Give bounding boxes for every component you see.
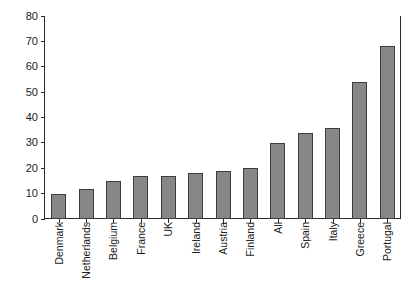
x-axis-category-label: Ireland [190,222,201,254]
y-axis: 80706050403020100 [0,0,45,308]
bar [133,176,148,219]
bar [188,173,203,219]
bar-slot [319,16,346,219]
x-label-slot: Austria [209,222,236,304]
y-axis-tick-label: 40 [26,112,41,123]
bar-slot [72,16,99,219]
x-label-slot: Greece [346,222,373,304]
bars-container [45,16,401,219]
bar-slot [264,16,291,219]
bar [216,171,231,219]
x-axis-labels: DenmarkNetherlandsBelgiumFranceUKIreland… [45,222,401,304]
x-axis-category-label: France [136,222,147,255]
x-axis-category-label: UK [163,222,174,237]
x-axis-category-label: Italy [327,222,338,241]
x-label-slot: Netherlands [72,222,99,304]
x-label-slot: Finland [237,222,264,304]
bar-slot [45,16,72,219]
bar [270,143,285,219]
x-label-slot: Spain [292,222,319,304]
y-axis-tick-label: 20 [26,163,41,174]
y-axis-tick-label: 60 [26,61,41,72]
bar-slot [292,16,319,219]
bar [352,82,367,219]
bar [79,189,94,219]
y-axis-tick-label: 70 [26,36,41,47]
bar-slot [182,16,209,219]
x-axis-category-label: Netherlands [81,222,92,279]
x-axis-category-label: All [273,222,284,234]
x-label-slot: All [264,222,291,304]
x-axis-category-label: Austria [218,222,229,255]
x-label-slot: Denmark [45,222,72,304]
x-axis-category-label: Finland [245,222,256,256]
bar [243,168,258,219]
x-axis-category-label: Belgium [108,222,119,260]
y-axis-tick-label: 80 [26,11,41,22]
x-label-slot: Belgium [100,222,127,304]
x-label-slot: France [127,222,154,304]
x-label-slot: Portugal [374,222,401,304]
x-axis-category-label: Portugal [382,222,393,261]
bar [51,194,66,219]
x-axis-category-label: Spain [300,222,311,249]
x-label-slot: Italy [319,222,346,304]
x-axis-category-label: Greece [355,222,366,256]
bar [380,46,395,219]
bar [325,128,340,219]
bar-slot [155,16,182,219]
bar-slot [127,16,154,219]
x-axis-category-label: Denmark [53,222,64,265]
y-axis-tick-label: 30 [26,137,41,148]
y-axis-tick-label: 0 [32,214,41,225]
bar [161,176,176,219]
y-axis-tick-label: 50 [26,87,41,98]
bar-slot [346,16,373,219]
x-label-slot: Ireland [182,222,209,304]
y-axis-tick-label: 10 [26,188,41,199]
x-label-slot: UK [155,222,182,304]
bar-slot [100,16,127,219]
bar-slot [209,16,236,219]
bar-slot [237,16,264,219]
bar [106,181,121,219]
bar [298,133,313,219]
bar-slot [374,16,401,219]
bar-chart: 80706050403020100 DenmarkNetherlandsBelg… [0,0,416,308]
